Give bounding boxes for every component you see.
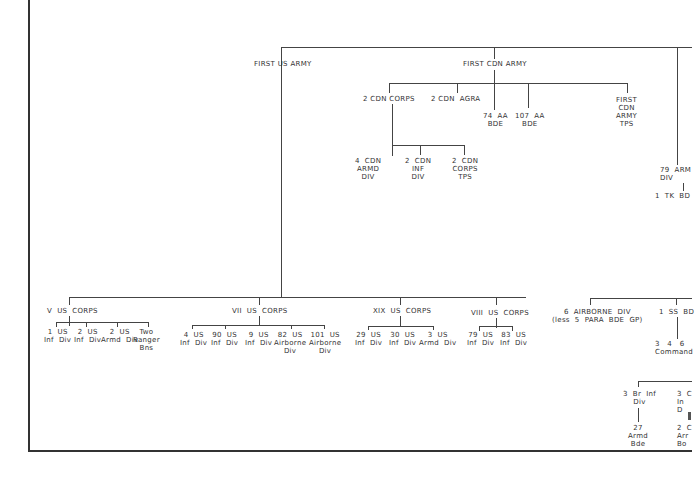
connector bbox=[464, 145, 465, 155]
connector bbox=[192, 325, 193, 329]
cdn-armd-div-4-label: 4 CDN ARMD DIV bbox=[355, 157, 381, 181]
aa-bde-107-label: 107 AA BDE bbox=[515, 112, 545, 128]
us-unit: 83 US Inf Div bbox=[500, 331, 527, 347]
connector bbox=[457, 83, 458, 93]
frame-left-border bbox=[28, 0, 30, 452]
connector bbox=[479, 326, 512, 327]
first-cdn-army-tps-label: FIRST CDN ARMY TPS bbox=[616, 96, 637, 128]
connector bbox=[528, 83, 529, 108]
connector bbox=[69, 297, 70, 305]
viii-us-corps-label: VIII US CORPS bbox=[471, 309, 529, 317]
cdn-corps-2-label: 2 CDN CORPS bbox=[363, 95, 415, 103]
connector bbox=[192, 325, 324, 326]
us-unit: 3 US Armd Div bbox=[419, 331, 456, 347]
connector bbox=[259, 297, 260, 305]
connector bbox=[676, 298, 677, 305]
us-corps-connector bbox=[69, 297, 526, 298]
xix-us-corps-label: XIX US CORPS bbox=[373, 307, 431, 315]
connector bbox=[389, 83, 390, 93]
connector bbox=[281, 47, 282, 297]
connector bbox=[225, 325, 226, 329]
first-cdn-army-label: FIRST CDN ARMY bbox=[463, 60, 527, 68]
cdn-inf-div-2-label: 2 CDN INF DIV bbox=[405, 157, 431, 181]
commando-label: 3 4 6 Command bbox=[655, 340, 693, 356]
frame-bottom-border bbox=[28, 450, 692, 452]
connector bbox=[324, 325, 325, 329]
connector bbox=[400, 316, 401, 326]
connector bbox=[86, 322, 87, 327]
connector bbox=[389, 83, 627, 84]
connector bbox=[638, 381, 639, 387]
us-unit: 101 US Airborne Div bbox=[309, 331, 341, 355]
us-unit: 82 US Airborne Div bbox=[274, 331, 306, 355]
c-inf-div-3-label: 3 C In D bbox=[677, 390, 692, 414]
c-armd-bde-2-label: 2 C Arr Bo bbox=[677, 424, 692, 448]
us-unit: 1 US Inf Div bbox=[44, 328, 71, 344]
us-unit: 30 US Inf Div bbox=[389, 331, 416, 347]
armd-div-79-label: 79 ARM DIV bbox=[660, 166, 691, 182]
connector bbox=[392, 104, 393, 156]
tk-bde-1-label: 1 TK BD bbox=[655, 192, 690, 200]
connector bbox=[56, 322, 148, 323]
cdn-corps-tps-label: 2 CDN CORPS TPS bbox=[452, 157, 478, 181]
connector bbox=[494, 47, 495, 59]
us-unit: 9 US Inf Div bbox=[245, 331, 272, 347]
connector bbox=[494, 70, 495, 110]
connector-mark bbox=[688, 412, 691, 420]
connector bbox=[69, 316, 70, 326]
cdn-agra-label: 2 CDN AGRA bbox=[431, 95, 480, 103]
connector bbox=[677, 317, 678, 339]
connector bbox=[368, 326, 369, 330]
vii-us-corps-label: VII US CORPS bbox=[232, 307, 288, 315]
aa-bde-74-label: 74 AA BDE bbox=[483, 112, 508, 128]
us-unit: Two Ranger Bns bbox=[133, 328, 160, 352]
connector bbox=[291, 325, 292, 329]
connector bbox=[677, 47, 678, 165]
armd-bde-27-label: 27 Armd Bde bbox=[628, 424, 648, 448]
connector bbox=[627, 83, 628, 93]
top-connector bbox=[281, 47, 692, 48]
connector bbox=[368, 326, 433, 327]
connector bbox=[683, 183, 684, 191]
first-us-army-label: FIRST US ARMY bbox=[254, 60, 312, 68]
ss-bde-1-label: 1 SS BD bbox=[659, 308, 694, 316]
connector bbox=[420, 145, 465, 146]
airborne-div-6-label: 6 AIRBORNE DIV (less 5 PARA BDE GP) bbox=[552, 308, 643, 324]
br-inf-div-3-label: 3 Br Inf Div bbox=[623, 390, 656, 406]
connector bbox=[420, 145, 421, 155]
us-unit: 79 US Inf Div bbox=[467, 331, 494, 347]
us-unit: 90 US Inf Div bbox=[211, 331, 238, 347]
connector bbox=[590, 298, 591, 305]
us-unit: 29 US Inf Div bbox=[355, 331, 382, 347]
connector bbox=[638, 381, 692, 382]
v-us-corps-label: V US CORPS bbox=[47, 307, 98, 315]
us-unit: 4 US Inf Div bbox=[180, 331, 207, 347]
connector bbox=[117, 322, 118, 327]
connector bbox=[433, 326, 434, 330]
us-unit: 2 US Inf Div bbox=[74, 328, 101, 344]
connector bbox=[56, 322, 57, 327]
connector bbox=[148, 322, 149, 327]
connector bbox=[400, 297, 401, 305]
connector bbox=[496, 297, 497, 305]
connector bbox=[638, 408, 639, 422]
